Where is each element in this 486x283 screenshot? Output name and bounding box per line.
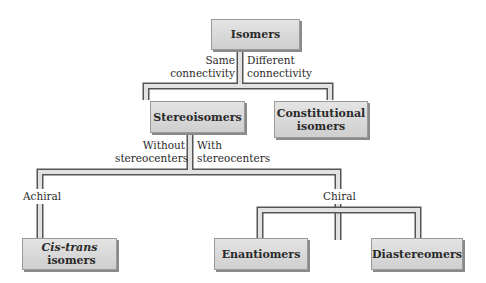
edge-label-same-connectivity: Same connectivity	[168, 54, 235, 80]
node-cis-trans-italic: Cis-trans	[42, 241, 98, 254]
node-cis-trans-isomers: Cis-trans isomers	[22, 238, 117, 270]
node-diastereomers: Diastereomers	[371, 238, 463, 270]
node-isomers-label: Isomers	[231, 28, 280, 41]
node-diastereomers-label: Diastereomers	[372, 248, 462, 261]
edge-label-achiral: Achiral	[21, 189, 63, 204]
edge-label-without-stereocenters: Without stereocenters	[115, 139, 185, 165]
node-constitutional-line1: Constitutional	[277, 107, 366, 120]
node-enantiomers: Enantiomers	[214, 238, 308, 270]
node-isomers: Isomers	[211, 19, 300, 50]
isomer-classification-diagram: Isomers Stereoisomers Constitutional iso…	[0, 0, 486, 283]
node-stereoisomers-label: Stereoisomers	[153, 111, 242, 124]
edge-label-different-connectivity: Different connectivity	[247, 54, 327, 80]
edge-label-with-stereocenters: With stereocenters	[197, 139, 277, 165]
node-enantiomers-label: Enantiomers	[222, 248, 301, 261]
node-stereoisomers: Stereoisomers	[150, 101, 245, 133]
node-constitutional-isomers: Constitutional isomers	[274, 101, 368, 138]
node-constitutional-line2: isomers	[297, 120, 345, 133]
edge-label-chiral: Chiral	[321, 189, 358, 204]
node-cis-trans-rest: isomers	[43, 254, 95, 267]
